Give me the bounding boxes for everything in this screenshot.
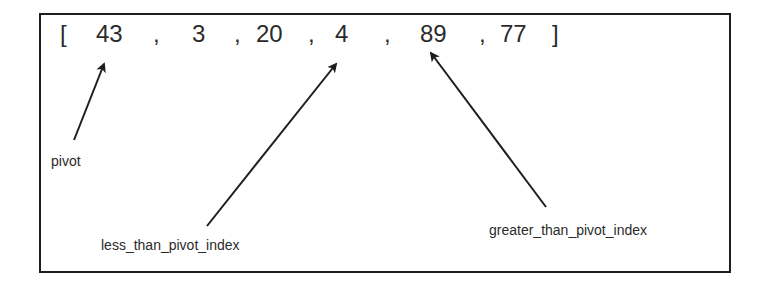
pivot-arrow-icon <box>74 64 104 140</box>
greater-than-pivot-arrow-icon <box>431 53 546 207</box>
less-than-pivot-arrow-icon <box>207 64 336 226</box>
less-than-pivot-index-label: less_than_pivot_index <box>101 237 240 253</box>
pivot-label: pivot <box>51 153 81 169</box>
greater-than-pivot-index-label: greater_than_pivot_index <box>489 222 647 238</box>
